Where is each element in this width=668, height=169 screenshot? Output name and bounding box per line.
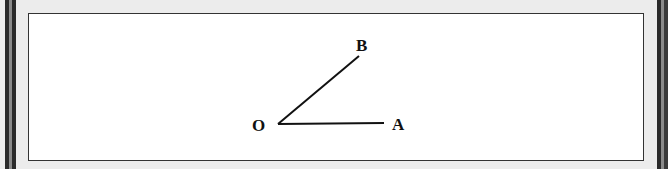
ray-OA [278, 123, 384, 124]
point-label-A: A [392, 115, 405, 134]
vertex-label-O: O [252, 116, 265, 135]
angle-diagram: O A B [0, 0, 668, 169]
point-label-B: B [356, 36, 367, 55]
ray-OB [278, 56, 359, 124]
